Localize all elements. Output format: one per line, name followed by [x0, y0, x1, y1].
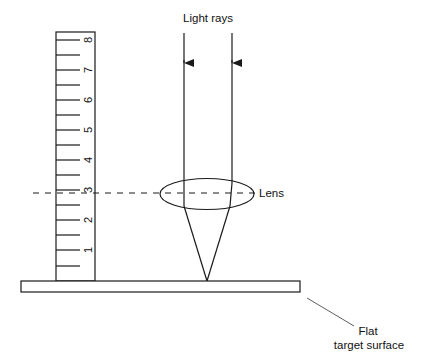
ruler-number-7: 7: [82, 67, 94, 73]
target-label-line1: Flat: [358, 325, 378, 337]
ray-right-converging: [207, 206, 230, 281]
lens-focus-diagram: 1 2 3 4 5 6 7 8 Light rays Lens Flat tar…: [0, 0, 436, 363]
ruler-numbers: 1 2 3 4 5 6 7 8: [82, 37, 94, 253]
ruler-number-5: 5: [82, 127, 94, 133]
target-surface-leader-line: [307, 298, 354, 326]
ruler-number-2: 2: [82, 217, 94, 223]
ruler-ticks: [56, 40, 80, 266]
flat-target-surface: [21, 281, 300, 292]
ruler-number-4: 4: [82, 157, 94, 163]
ray-left-converging: [184, 206, 207, 281]
ruler-number-8: 8: [82, 37, 94, 43]
light-rays-label: Light rays: [183, 12, 233, 24]
target-label-line2: target surface: [334, 339, 404, 351]
ruler-number-3: 3: [82, 187, 94, 193]
ruler-number-1: 1: [82, 247, 94, 253]
lens-ellipse: [160, 179, 254, 210]
ruler-number-6: 6: [82, 97, 94, 103]
light-rays: [184, 33, 232, 281]
lens-label: Lens: [259, 187, 284, 199]
ruler: 1 2 3 4 5 6 7 8: [56, 32, 95, 281]
